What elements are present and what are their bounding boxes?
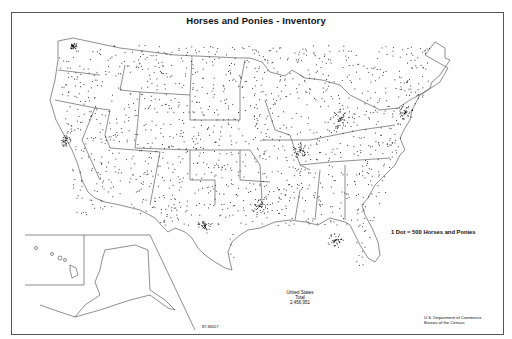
total-value: 2,456,951 — [280, 300, 320, 305]
source-credit: U.S. Department of Commerce Bureau of th… — [424, 315, 481, 325]
state-boundaries — [25, 38, 450, 330]
us-dot-map — [0, 0, 512, 339]
credit-line-2: Bureau of the Census — [424, 320, 481, 325]
map-id: 87-M207 — [202, 324, 219, 329]
us-total-label: United States Total 2,456,951 — [280, 290, 320, 305]
legend-dot-value: 1 Dot = 500 Horses and Ponies — [391, 229, 476, 235]
